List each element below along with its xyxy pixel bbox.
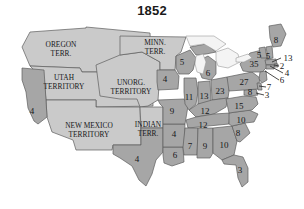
maine-shape [269,24,286,47]
virginia-shape [226,96,258,113]
indian-territory-shape [140,107,163,128]
us-map-svg [0,0,304,209]
alabama-shape [197,128,213,158]
new-jersey-shape [259,71,267,83]
new-mexico-territory-shape [46,100,141,150]
electoral-map-figure: 1852 [0,0,304,209]
mississippi-shape [183,128,198,155]
pennsylvania-shape [227,72,260,91]
iowa-shape [157,70,179,90]
arkansas-shape [163,124,185,147]
florida-shape [222,155,248,187]
california-shape [22,68,47,124]
connecticut-shape [266,65,274,69]
tennessee-shape [186,113,230,128]
louisiana-shape [163,147,184,166]
